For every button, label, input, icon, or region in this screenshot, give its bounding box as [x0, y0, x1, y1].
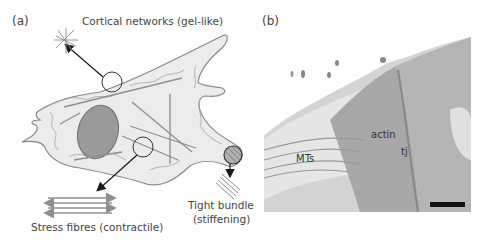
- actin-annotation: actin: [371, 130, 396, 140]
- electron-micrograph: [264, 37, 471, 212]
- cell-outline: [22, 35, 242, 185]
- contractile-fibres-icon: [46, 198, 114, 213]
- tight-junction-annotation: tj: [401, 147, 408, 157]
- scale-bar: [430, 202, 465, 207]
- cell-diagram: [0, 0, 490, 242]
- cortical-network-icon: [54, 28, 78, 54]
- tight-bundle-callout-circle: [224, 146, 242, 164]
- microtubules-annotation: MTs: [296, 154, 314, 164]
- tight-bundle-icon: [216, 174, 240, 199]
- panel-b-label: (b): [262, 15, 279, 27]
